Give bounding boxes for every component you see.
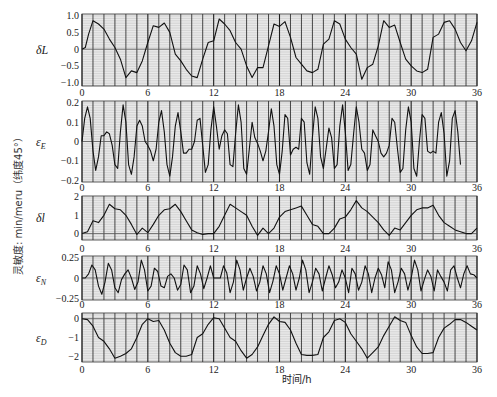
y-tick-label: 0	[74, 313, 79, 324]
x-tick-label: 6	[145, 364, 150, 375]
panel-dl: 210061218243036δl	[36, 191, 482, 254]
panel-eD: 0−1−2061218243036εD	[36, 313, 482, 375]
y-tick-label: −0.25	[56, 293, 79, 304]
x-tick-label: 30	[406, 243, 416, 254]
y-tick-label: 1.0	[67, 10, 80, 21]
x-tick-label: 0	[80, 364, 85, 375]
y-tick-label: −0.1	[61, 155, 79, 166]
x-tick-label: 12	[209, 87, 219, 98]
y-tick-label: 0	[74, 44, 79, 55]
x-tick-label: 6	[145, 182, 150, 193]
x-tick-label: 0	[80, 299, 85, 310]
x-tick-label: 6	[145, 243, 150, 254]
x-axis-label: 时间/h	[282, 373, 312, 385]
panel-label-eD: εD	[36, 331, 47, 347]
y-tick-label: −2	[68, 351, 79, 362]
x-tick-label: 30	[406, 364, 416, 375]
x-tick-label: 6	[145, 87, 150, 98]
x-tick-label: 0	[80, 87, 85, 98]
y-tick-label: 2	[74, 191, 79, 202]
y-tick-label: −1	[68, 332, 79, 343]
y-tick-label: 1	[74, 210, 79, 221]
gyro-sensitivity-figure: 1.00.50−0.5−1.0061218243036δL0.20.10−0.1…	[0, 0, 497, 397]
y-tick-label: −0.2	[61, 175, 79, 186]
x-tick-label: 24	[340, 182, 350, 193]
x-tick-label: 0	[80, 243, 85, 254]
x-tick-label: 30	[406, 299, 416, 310]
panel-label-dl: δl	[36, 211, 46, 225]
x-tick-label: 24	[340, 243, 350, 254]
y-tick-label: 0.1	[67, 117, 80, 128]
x-tick-label: 12	[209, 182, 219, 193]
panels-group: 1.00.50−0.5−1.0061218243036δL0.20.10−0.1…	[36, 10, 482, 375]
y-tick-label: 0	[74, 136, 79, 147]
y-tick-label: −0.5	[61, 60, 79, 71]
x-tick-label: 30	[406, 87, 416, 98]
y-tick-label: 0	[74, 228, 79, 239]
x-tick-label: 24	[340, 299, 350, 310]
x-tick-label: 18	[275, 243, 285, 254]
x-tick-label: 24	[340, 87, 350, 98]
panel-eN: 0.250−0.25061218243036εN	[36, 252, 482, 310]
x-tick-label: 36	[472, 182, 482, 193]
panel-label-eN: εN	[36, 271, 47, 287]
y-tick-label: 0	[74, 273, 79, 284]
x-tick-label: 36	[472, 87, 482, 98]
x-tick-label: 0	[80, 182, 85, 193]
y-axis-side-label: 灵敏度: min/meru（纬度45°）	[12, 132, 24, 275]
x-tick-label: 36	[472, 299, 482, 310]
panel-eE: 0.20.10−0.1−0.2061218243036εE	[36, 97, 482, 193]
x-tick-label: 18	[275, 299, 285, 310]
x-tick-label: 36	[472, 364, 482, 375]
x-tick-label: 30	[406, 182, 416, 193]
panel-label-dL: δL	[36, 43, 49, 57]
x-tick-label: 24	[340, 364, 350, 375]
x-tick-label: 12	[209, 243, 219, 254]
x-tick-label: 6	[145, 299, 150, 310]
panel-label-eE: εE	[36, 135, 46, 151]
x-tick-label: 36	[472, 243, 482, 254]
y-tick-label: 0.25	[62, 252, 80, 263]
y-tick-label: 0.2	[67, 97, 80, 108]
x-tick-label: 18	[275, 182, 285, 193]
y-tick-label: −1.0	[61, 77, 79, 88]
y-tick-label: 0.5	[67, 27, 80, 38]
x-tick-label: 12	[209, 299, 219, 310]
panel-dL: 1.00.50−0.5−1.0061218243036δL	[36, 10, 482, 98]
x-tick-label: 18	[275, 87, 285, 98]
x-tick-label: 12	[209, 364, 219, 375]
